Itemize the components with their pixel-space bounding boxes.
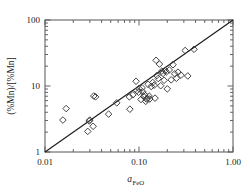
- x-axis-tick-labels: 0.010.101.00: [37, 157, 241, 167]
- data-point: [60, 117, 67, 124]
- chart-figure: 0.010.101.00 110100 a FeO (%Mn)/[%Mn]: [0, 0, 250, 195]
- x-tick-label: 0.10: [131, 157, 147, 167]
- y-axis-label: (%Mn)/[%Mn]: [6, 57, 17, 115]
- data-point: [182, 47, 189, 54]
- x-tick-label: 0.01: [37, 157, 53, 167]
- x-tick-label: 1.00: [225, 157, 241, 167]
- y-axis-tick-labels: 110100: [27, 15, 41, 157]
- scatter-plot: 0.010.101.00 110100 a FeO (%Mn)/[%Mn]: [0, 0, 250, 195]
- data-point: [161, 77, 168, 84]
- data-point: [156, 61, 163, 68]
- y-tick-label: 1: [36, 147, 41, 157]
- y-tick-label: 10: [31, 81, 41, 91]
- x-axis-label-base: a: [127, 174, 132, 184]
- data-point: [63, 105, 70, 112]
- x-axis-label-subscript: FeO: [133, 179, 145, 186]
- data-point: [127, 106, 134, 113]
- data-point: [184, 73, 191, 80]
- data-point: [157, 82, 164, 89]
- data-point: [84, 128, 91, 135]
- parity-reference-line: [45, 20, 233, 152]
- data-point: [105, 111, 112, 118]
- data-point: [90, 123, 97, 130]
- x-axis-label: a FeO: [127, 174, 144, 186]
- data-point: [133, 78, 140, 85]
- y-tick-label: 100: [27, 15, 41, 25]
- data-point: [164, 86, 171, 93]
- data-point: [153, 57, 160, 64]
